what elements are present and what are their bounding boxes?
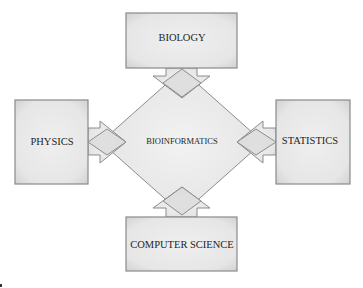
physics-label: PHYSICS [30,136,73,147]
biology-label: BIOLOGY [158,32,206,43]
bioinformatics-diagram: BIOINFORMATICS BIOLOGY PHYSICS STATISTIC… [0,0,363,288]
center-label: BIOINFORMATICS [146,136,218,146]
statistics-label: STATISTICS [282,135,338,146]
computer-science-label: COMPUTER SCIENCE [130,239,234,250]
corner-mark [0,284,2,287]
